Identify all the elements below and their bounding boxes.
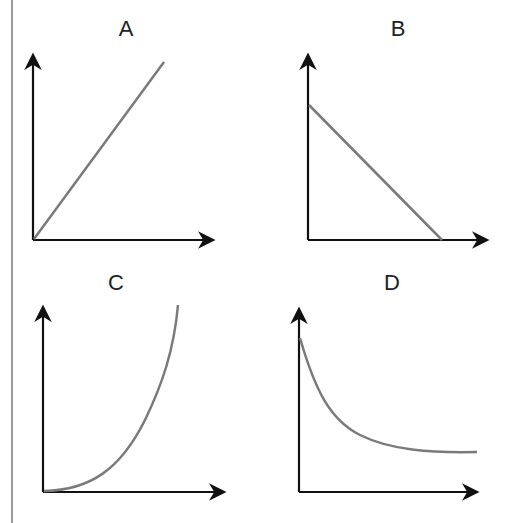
graph-d [299,310,477,492]
graph-c [43,305,223,492]
graph-c-curve [44,305,178,491]
graphs-canvas [0,0,513,523]
graph-a [33,56,212,240]
graph-b-curve [309,105,442,240]
graph-a-curve [34,62,164,239]
graph-d-curve [300,338,477,452]
graph-b [308,56,486,240]
